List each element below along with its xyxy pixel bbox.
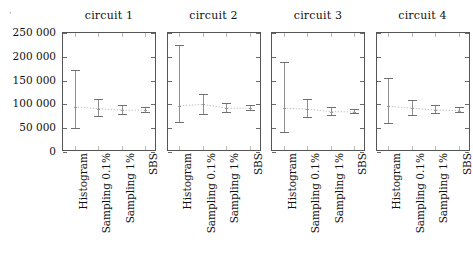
error-bar-cap-upper [327,107,336,108]
data-point-marker [178,106,181,107]
error-bar [226,103,227,113]
error-bar-cap-upper [455,107,464,108]
error-bar-stem [179,45,180,124]
x-axis-tick-label: Histogram [182,153,193,209]
error-bar [307,99,308,118]
data-point-marker [306,109,309,110]
error-bar-stem [388,78,389,124]
error-bar-cap-lower [118,114,127,115]
error-bar-cap-lower [431,113,440,114]
error-bar [459,107,460,113]
chart-panel: circuit 4HistogramSampling 0.1%Sampling … [376,0,470,260]
error-bar-cap-lower [384,123,393,124]
x-axis-tick-label: SBS [253,153,264,175]
x-axis-tick-label: Sampling 0.1% [415,153,426,233]
error-bar-cap-lower [94,116,103,117]
error-bar-cap-upper [118,105,127,106]
error-bar-cap-lower [303,117,312,118]
error-bar-cap-upper [141,107,150,108]
data-point-marker [434,110,437,111]
error-bar [284,62,285,133]
data-point-marker [144,110,147,111]
error-bar-cap-lower [71,128,80,129]
error-bar-cap-upper [280,62,289,63]
x-axis-tick-label: Sampling 1% [438,153,449,223]
error-bar-cap-upper [94,99,103,100]
error-bar-cap-upper [408,100,417,101]
panel-title: circuit 2 [167,10,261,22]
error-bar-cap-lower [408,115,417,116]
error-bar-cap-upper [199,94,208,95]
y-axis-tick-label: 0 [49,146,56,156]
error-bar [412,100,413,116]
error-bar-cap-lower [280,132,289,133]
plot-inner [168,33,260,150]
error-bar [145,107,146,113]
error-bar [331,107,332,116]
chart-panel: circuit 2HistogramSampling 0.1%Sampling … [167,0,261,260]
error-bar-cap-upper [303,99,312,100]
error-bar-stem [284,62,285,133]
error-bar-cap-upper [175,45,184,46]
error-bar [98,99,99,118]
plot-inner [377,33,469,150]
x-axis-tick-label: SBS [148,153,159,175]
data-point-marker [225,108,228,109]
x-axis-tick-label-group: HistogramSampling 0.1%Sampling 1%SBS [62,153,156,257]
error-bar-cap-lower [222,112,231,113]
x-axis-tick-label: Sampling 1% [334,153,345,223]
error-bar-cap-lower [199,114,208,115]
data-point-marker [202,104,205,105]
y-axis-tick-label: 200 000 [13,51,56,61]
error-bar-cap-upper [222,103,231,104]
panel-title: circuit 4 [376,10,470,22]
error-bar-cap-upper [350,109,359,110]
x-axis-tick-label: Histogram [391,153,402,209]
panel-title: circuit 3 [271,10,365,22]
y-axis-tick-label: 250 000 [13,27,56,37]
series-connector-line [168,33,260,150]
data-point-marker [121,110,124,111]
error-bar [388,78,389,124]
x-axis-tick-label: Histogram [287,153,298,209]
x-axis-tick-label: SBS [357,153,368,175]
error-bar-cap-lower [350,113,359,114]
x-axis-tick-label: Sampling 0.1% [310,153,321,233]
x-axis-tick-label: Sampling 0.1% [101,153,112,233]
error-bar-cap-lower [246,110,255,111]
data-point-marker [74,107,77,108]
plot-area [167,32,261,151]
plot-inner [63,33,155,150]
y-axis-tick-label: 100 000 [13,98,56,108]
error-bar-stem [75,70,76,129]
x-axis-tick-label-group: HistogramSampling 0.1%Sampling 1%SBS [376,153,470,257]
plot-inner [272,33,364,150]
chart-panel: circuit 1HistogramSampling 0.1%Sampling … [62,0,156,260]
plot-area [271,32,365,151]
error-bar [75,70,76,129]
panel-title: circuit 1 [62,10,156,22]
error-bar [250,105,251,111]
error-bar-cap-upper [384,78,393,79]
error-bar-cap-upper [431,105,440,106]
error-bar-cap-lower [175,122,184,123]
x-axis-tick-label: Sampling 1% [229,153,240,223]
data-point-marker [458,111,461,112]
error-bar [203,94,204,115]
plot-area [376,32,470,151]
error-bar [179,45,180,124]
x-axis-tick-label-group: HistogramSampling 0.1%Sampling 1%SBS [167,153,261,257]
panel-row: circuit 1HistogramSampling 0.1%Sampling … [62,0,471,260]
error-bar-cap-lower [141,112,150,113]
x-axis-tick-label-group: HistogramSampling 0.1%Sampling 1%SBS [271,153,365,257]
error-bar [122,105,123,115]
series-connector-line [63,33,155,150]
error-bar [435,105,436,114]
error-bar-cap-upper [71,70,80,71]
plot-area [62,32,156,151]
series-connector-line [377,33,469,150]
data-point-marker [249,108,252,109]
data-point-marker [330,112,333,113]
x-axis-tick-label: Sampling 0.1% [206,153,217,233]
